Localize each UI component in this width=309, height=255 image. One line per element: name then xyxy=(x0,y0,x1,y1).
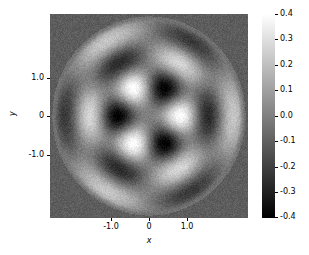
colorbar-tick-label: -0.2 xyxy=(280,162,296,172)
colorbar-tick-mark xyxy=(275,65,278,66)
x-axis-label: x xyxy=(50,236,248,245)
x-tick-mark xyxy=(187,218,188,221)
heatmap-image xyxy=(50,14,248,218)
colorbar-tick-mark xyxy=(275,167,278,168)
colorbar-tick-label: 0.0 xyxy=(280,111,293,121)
y-tick-label: 1.0 xyxy=(8,73,44,83)
x-tick-label: -1.0 xyxy=(91,222,131,232)
colorbar-tick-mark xyxy=(275,90,278,91)
colorbar-tick-label: -0.1 xyxy=(280,136,296,146)
colorbar-tick-mark xyxy=(275,192,278,193)
colorbar xyxy=(262,14,275,218)
colorbar-tick-mark xyxy=(275,39,278,40)
y-tick-mark xyxy=(47,116,50,117)
colorbar-tick-label: 0.3 xyxy=(280,34,293,44)
y-tick-label: -1.0 xyxy=(8,150,44,160)
figure: -1.0 0 1.0 1.0 0 -1.0 x y 0.4 0.3 0.2 0.… xyxy=(0,0,309,255)
y-tick-mark xyxy=(47,78,50,79)
colorbar-gradient xyxy=(262,14,275,218)
colorbar-tick-label: -0.3 xyxy=(280,187,296,197)
x-tick-mark xyxy=(111,218,112,221)
colorbar-tick-label: 0.2 xyxy=(280,60,293,70)
y-tick-mark xyxy=(47,155,50,156)
x-tick-mark xyxy=(149,218,150,221)
colorbar-tick-mark xyxy=(275,141,278,142)
colorbar-tick-mark xyxy=(275,14,278,15)
colorbar-tick-mark xyxy=(275,116,278,117)
colorbar-tick-label: 0.1 xyxy=(280,85,293,95)
heatmap-axes xyxy=(50,14,248,218)
colorbar-tick-label: 0.4 xyxy=(280,9,293,19)
x-tick-label: 1.0 xyxy=(167,222,207,232)
x-tick-label: 0 xyxy=(129,222,169,232)
colorbar-tick-mark xyxy=(275,217,278,218)
y-axis-label: y xyxy=(8,99,17,129)
colorbar-tick-label: -0.4 xyxy=(280,212,296,222)
